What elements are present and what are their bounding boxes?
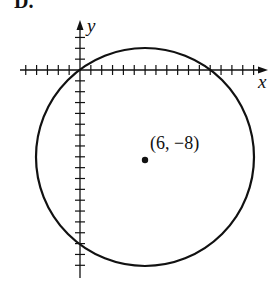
center-point bbox=[142, 157, 148, 163]
option-label: D. bbox=[14, 0, 33, 12]
y-axis-arrow-icon bbox=[77, 20, 84, 30]
x-axis-label: x bbox=[257, 71, 267, 92]
y-axis-label: y bbox=[85, 15, 96, 36]
coordinate-plane-figure: D. x y (6, −8) bbox=[0, 0, 273, 285]
center-label: (6, −8) bbox=[150, 133, 199, 154]
